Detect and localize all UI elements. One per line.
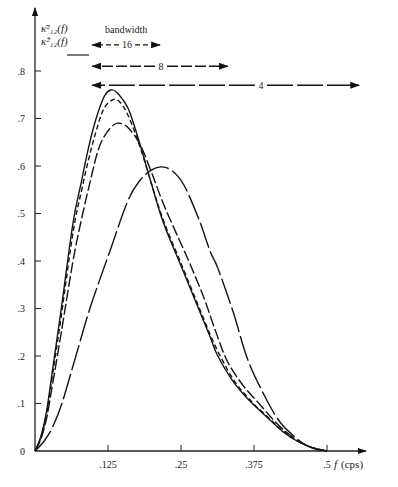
curves — [35, 90, 327, 451]
bandwidth-arrow-4: 4 — [92, 80, 359, 91]
curve-bandwidth-8 — [35, 123, 327, 451]
bandwidth-label: 16 — [122, 39, 132, 50]
bandwidth-arrow-8: 8 — [92, 61, 227, 72]
coherency-chart: 0.1.2.3.4.5.6.7.8.125.25.375.5f(cps)κ̄²₁… — [0, 0, 398, 487]
x-tick-label: .5 — [323, 459, 331, 470]
x-axis-unit: (cps) — [341, 458, 363, 471]
x-tick-label: .125 — [99, 459, 117, 470]
y-axis-label: κ̂²₁₂(f) — [41, 35, 68, 48]
curve-bandwidth-16 — [35, 99, 327, 451]
y-tick-label: .4 — [18, 256, 26, 267]
y-tick-label: .3 — [18, 303, 26, 314]
x-tick-label: .25 — [175, 459, 188, 470]
curve-bandwidth-4 — [35, 167, 327, 451]
bandwidth-label: 4 — [259, 80, 264, 91]
y-tick-label: .1 — [18, 398, 26, 409]
y-tick-label: .6 — [18, 161, 26, 172]
bandwidth-arrow-16: 16 — [92, 39, 160, 50]
bandwidth-legend: bandwidth1684 — [92, 24, 359, 91]
y-tick-label: .8 — [18, 66, 26, 77]
x-tick-label: .375 — [245, 459, 263, 470]
y-axis-label: κ̄²₁₂(f) — [41, 22, 68, 35]
bandwidth-label: 8 — [159, 61, 164, 72]
curve-true-coherency — [35, 90, 327, 451]
y-tick-label: .2 — [18, 351, 26, 362]
axes: 0.1.2.3.4.5.6.7.8.125.25.375.5f(cps)κ̄²₁… — [18, 8, 367, 471]
legend-title: bandwidth — [105, 24, 147, 35]
y-tick-label: .7 — [18, 113, 26, 124]
y-tick-label: 0 — [20, 446, 25, 457]
y-tick-label: .5 — [18, 208, 26, 219]
x-axis-title: f(cps) — [334, 458, 363, 471]
x-axis-variable: f — [334, 458, 339, 470]
